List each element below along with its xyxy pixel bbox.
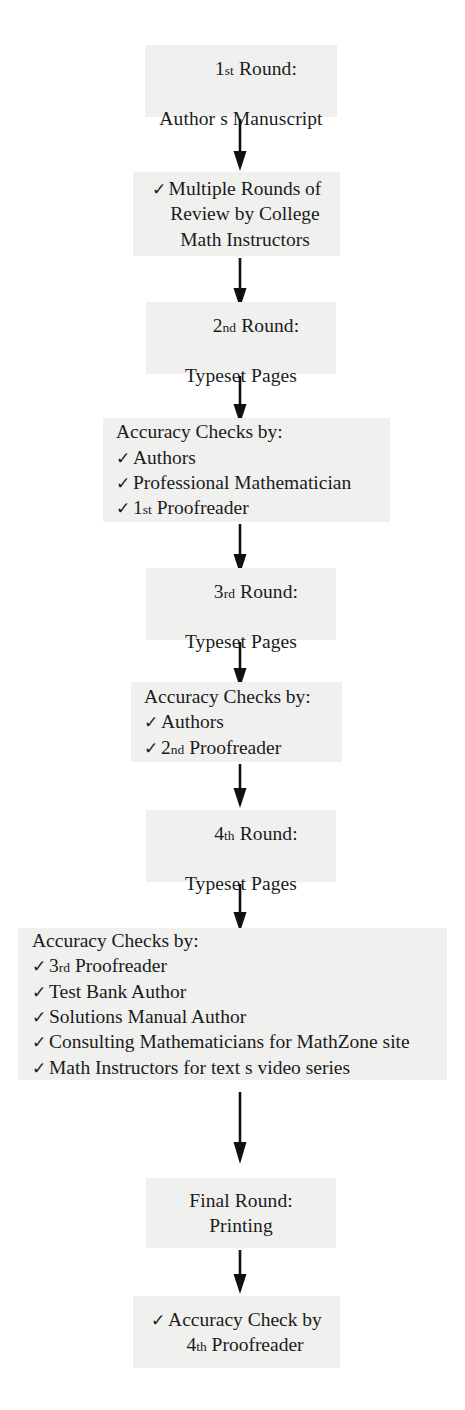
checklist-row: Math Instructors <box>133 227 340 252</box>
checklist-row-label: Consulting Mathematicians for MathZone s… <box>49 1029 447 1054</box>
node-accuracy-checks-1: Accuracy Checks by: ✓ Authors ✓ Professi… <box>103 418 390 522</box>
checklist-row-label: Review by College <box>170 201 319 226</box>
ordinal-suffix: th <box>224 828 235 843</box>
ordinal-number: 4 <box>214 823 224 844</box>
row-text-pre: Authors <box>133 447 196 468</box>
row-text-ord: rd <box>59 960 70 975</box>
row-text-pre: Consulting Mathematicians for MathZone s… <box>49 1031 410 1052</box>
row-text-pre: Solutions Manual Author <box>49 1006 246 1027</box>
check-icon: ✓ <box>32 1007 49 1029</box>
ordinal-number: 3 <box>214 581 224 602</box>
checklist-row-label: Authors <box>133 445 390 470</box>
accuracy-checks-2-heading: Accuracy Checks by: <box>144 684 342 709</box>
row-text-pre: 2 <box>161 737 171 758</box>
accuracy-checks-3-heading: Accuracy Checks by: <box>32 928 447 953</box>
checklist-row-label: 2nd Proofreader <box>161 735 342 760</box>
node-final-round-line-1: Final Round: <box>146 1188 336 1213</box>
node-round-1-line-1: 1st Round: <box>145 30 337 106</box>
node-accuracy-check-final: ✓ Accuracy Check by 4th Proofreader <box>133 1296 340 1368</box>
checklist-row: ✓ Solutions Manual Author <box>32 1004 447 1029</box>
ordinal-suffix: st <box>225 63 234 78</box>
row-text-pre: 4 <box>186 1334 196 1355</box>
accuracy-checks-1-heading: Accuracy Checks by: <box>116 419 390 444</box>
checklist-row: ✓ Accuracy Check by <box>133 1307 340 1332</box>
node-round-3-line-1: 3rd Round: <box>146 553 336 629</box>
check-icon: ✓ <box>116 473 133 495</box>
checklist-row-label: Solutions Manual Author <box>49 1004 447 1029</box>
checklist-row-label: Math Instructors <box>180 227 309 252</box>
checklist-row: ✓ Authors <box>144 709 342 734</box>
ordinal-number: 1 <box>215 58 225 79</box>
row-text-post: Proofreader <box>152 497 249 518</box>
checklist-row: ✓ Test Bank Author <box>32 979 447 1004</box>
ordinal-suffix: rd <box>224 586 235 601</box>
checklist-row: ✓ Multiple Rounds of <box>133 176 340 201</box>
checklist-row: ✓ Math Instructors for text s video seri… <box>32 1055 447 1080</box>
checklist-row: ✓ Professional Mathematician <box>116 470 390 495</box>
node-round-4: 4th Round: Typeset Pages <box>146 810 336 882</box>
check-icon: ✓ <box>32 1032 49 1054</box>
arrow-down-icon-8 <box>232 1092 248 1164</box>
node-final-round: Final Round: Printing <box>146 1178 336 1248</box>
checklist-row-label: Test Bank Author <box>49 979 447 1004</box>
arrow-down-icon-1 <box>232 119 248 171</box>
checklist-row-label: 4th Proofreader <box>186 1332 303 1357</box>
node-round-3: 3rd Round: Typeset Pages <box>146 568 336 640</box>
check-icon: ✓ <box>144 738 161 760</box>
check-icon: ✓ <box>116 498 133 520</box>
node-accuracy-checks-2: Accuracy Checks by: ✓ Authors ✓ 2nd Proo… <box>131 682 342 762</box>
node-round-4-line-1: 4th Round: <box>146 795 336 871</box>
ordinal-rest: Round: <box>234 58 297 79</box>
row-text-post: Proofreader <box>184 737 281 758</box>
check-icon: ✓ <box>144 712 161 734</box>
row-text-pre: Authors <box>161 711 224 732</box>
ordinal-rest: Round: <box>235 823 298 844</box>
checklist-row-label: 1st Proofreader <box>133 495 390 520</box>
checklist-row-label: Math Instructors for text s video series <box>49 1055 447 1080</box>
row-text-ord: st <box>143 502 152 517</box>
node-multiple-rounds-review: ✓ Multiple Rounds of Review by College M… <box>133 172 340 256</box>
ordinal-suffix: nd <box>223 320 237 335</box>
flowchart-canvas: 1st Round: Author s Manuscript ✓ Multipl… <box>0 0 465 1410</box>
checklist-row-label: Authors <box>161 709 342 734</box>
checklist-row: 4th Proofreader <box>133 1332 340 1357</box>
check-icon: ✓ <box>151 1310 168 1332</box>
node-round-2: 2nd Round: Typeset Pages <box>146 302 336 374</box>
checklist-row: Review by College <box>133 201 340 226</box>
row-text-pre: Professional Mathematician <box>133 472 351 493</box>
node-round-2-line-1: 2nd Round: <box>146 287 336 363</box>
check-icon: ✓ <box>32 956 49 978</box>
arrow-down-icon-3 <box>232 376 248 424</box>
ordinal-number: 2 <box>213 315 223 336</box>
checklist-row: ✓ 1st Proofreader <box>116 495 390 520</box>
check-icon: ✓ <box>116 448 133 470</box>
checklist-row-label: 3rd Proofreader <box>49 953 447 978</box>
checklist-row: ✓ 2nd Proofreader <box>144 735 342 760</box>
check-icon: ✓ <box>152 179 169 201</box>
checklist-row: ✓ Consulting Mathematicians for MathZone… <box>32 1029 447 1054</box>
row-text-pre: Test Bank Author <box>49 981 186 1002</box>
checklist-row-label: Multiple Rounds of <box>169 176 322 201</box>
checklist-row: ✓ 3rd Proofreader <box>32 953 447 978</box>
check-icon: ✓ <box>32 982 49 1004</box>
row-text-pre: Math Instructors for text s video series <box>49 1057 350 1078</box>
row-text-pre: 1 <box>133 497 143 518</box>
row-text-ord: th <box>196 1339 207 1354</box>
node-final-round-line-2: Printing <box>146 1213 336 1238</box>
row-text-pre: 3 <box>49 955 59 976</box>
arrow-down-icon-9 <box>232 1250 248 1294</box>
checklist-row-label: Accuracy Check by <box>168 1307 322 1332</box>
ordinal-rest: Round: <box>236 315 299 336</box>
row-text-post: Proofreader <box>207 1334 304 1355</box>
arrow-down-icon-7 <box>232 884 248 932</box>
node-round-1: 1st Round: Author s Manuscript <box>145 45 337 117</box>
row-text-ord: nd <box>171 742 185 757</box>
node-accuracy-checks-3: Accuracy Checks by: ✓ 3rd Proofreader ✓ … <box>18 928 447 1080</box>
row-text-post: Proofreader <box>70 955 167 976</box>
check-icon: ✓ <box>32 1058 49 1080</box>
checklist-row-label: Professional Mathematician <box>133 470 390 495</box>
checklist-row: ✓ Authors <box>116 445 390 470</box>
ordinal-rest: Round: <box>235 581 298 602</box>
